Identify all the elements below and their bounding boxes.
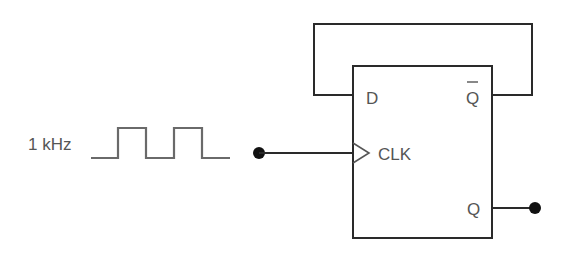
input-frequency-label: 1 kHz [28, 135, 71, 154]
pin-q-bar-label: Q [466, 89, 479, 108]
output-terminal [529, 202, 541, 214]
square-wave-icon [91, 128, 230, 158]
flip-flop-diagram: 1 kHz D Q CLK Q [0, 0, 580, 260]
pin-d-label: D [366, 89, 378, 108]
pin-clk-label: CLK [378, 145, 412, 164]
pin-q-label: Q [467, 200, 480, 219]
